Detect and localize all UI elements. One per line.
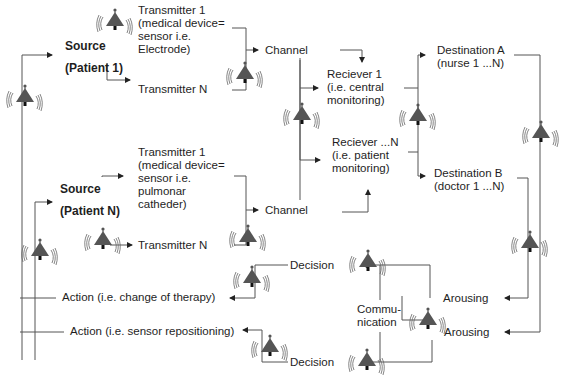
destination-b: Destination B (doctor 1 ...N) [434,167,504,193]
transmitter-desc: sensor i.e. [138,172,225,185]
receiver-n: Reciever ...N (i.e. patient monitoring) [332,136,398,175]
receiver-desc: (i.e. patient [332,149,398,162]
action-change-of-therapy: Action (i.e. change of therapy) [62,291,215,304]
channel-top: Channel [265,44,308,57]
alarm-bell-icon [22,238,58,265]
transmitter-1-patient-1: Transmitter 1 (medical device= sensor i.… [138,4,225,56]
destination-a: Destination A (nurse 1 ...N) [437,44,505,70]
communication-line: nication [357,316,401,329]
receiver-1: Reciever 1 (i.e. central monitoring) [327,68,385,107]
channel-bottom: Channel [265,204,308,217]
source-patient-1: Source (Patient 1) [65,40,123,75]
alarm-bell-icon [284,102,320,129]
alarm-bell-icon [85,227,121,254]
action-sensor-repositioning: Action (i.e. sensor repositioning) [70,325,234,338]
source-patient-n: Source (Patient N) [60,183,120,218]
alarm-bell-icon [230,224,266,251]
arousing-top: Arousing [443,292,488,305]
alarm-bell-icon [252,334,288,361]
transmitter-desc: Electrode) [138,43,225,56]
alarm-bell-icon [227,61,263,88]
receiver-desc: monitoring) [332,162,398,175]
receiver-desc: (i.e. central [327,81,385,94]
source-title: Source [65,40,123,53]
transmitter-title: Transmitter 1 [138,146,225,159]
transmitter-desc: catheder) [138,198,225,211]
alarm-bell-icon [349,348,385,375]
source-subtitle: (Patient N) [60,205,120,218]
alarm-bell-icon [7,84,43,111]
destination-desc: (nurse 1 ...N) [437,57,505,70]
receiver-desc: monitoring) [327,94,385,107]
destination-title: Destination B [434,167,504,180]
alarm-bell-icon [97,8,133,35]
arousing-bottom: Arousing [444,326,489,339]
transmitter-title: Transmitter N [138,83,207,96]
receiver-title: Reciever ...N [332,136,398,149]
transmitter-desc: (medical device= [138,159,225,172]
transmitter-desc: sensor i.e. [138,30,225,43]
transmitter-title: Transmitter N [138,239,207,252]
source-title: Source [60,183,120,196]
transmitter-n-patient-n: Transmitter N [138,239,207,252]
alarm-bell-icon [410,307,446,334]
decision-top: Decision [290,259,334,272]
destination-desc: (doctor 1 ...N) [434,180,504,193]
transmitter-n-patient-1: Transmitter N [138,83,207,96]
communication: Commu- nication [357,303,401,329]
alarm-bell-icon [234,265,270,292]
transmitter-desc: pulmonar [138,185,225,198]
destination-title: Destination A [437,44,505,57]
transmitter-desc: (medical device= [138,17,225,30]
transmitter-1-patient-n: Transmitter 1 (medical device= sensor i.… [138,146,225,211]
alarm-flow-diagram: Source (Patient 1) Source (Patient N) Tr… [0,0,563,383]
source-subtitle: (Patient 1) [65,62,123,75]
alarm-bell-icon [512,230,548,257]
decision-bottom: Decision [290,356,334,369]
transmitter-title: Transmitter 1 [138,4,225,17]
communication-line: Commu- [357,303,401,316]
receiver-title: Reciever 1 [327,68,385,81]
